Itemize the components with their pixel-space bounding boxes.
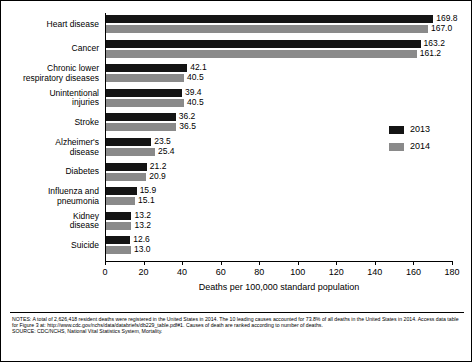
bar-fill [106,89,182,97]
category-label: Alzheimer'sdisease [1,138,99,157]
x-tick [375,261,376,265]
bar-value-label: 13.2 [134,221,151,231]
x-tick-label: 180 [437,267,467,277]
bar-value-label: 167.0 [431,24,452,34]
bar-fill [106,50,417,58]
bar-fill [106,15,433,23]
bar-value-label: 21.2 [150,162,167,172]
category-label: Kidneydisease [1,212,99,231]
legend-swatch [389,143,404,151]
bar-value-label: 40.5 [187,73,204,83]
bar-value-label: 25.4 [158,147,175,157]
chart-legend: 20132014 [389,125,430,159]
bar-fill [106,173,146,181]
category-label: Heart disease [1,20,99,30]
category-label: Unintentionalinjuries [1,89,99,108]
footer-notes: NOTES: A total of 2,626,418 resident dea… [12,316,464,335]
bar-value-label: 36.5 [179,122,196,132]
category-label: Cancer [1,44,99,54]
bar-fill [106,64,187,72]
x-tick-label: 80 [244,267,274,277]
category-label: Influenza andpneumonia [1,187,99,206]
legend-item-2014[interactable]: 2014 [389,142,430,151]
bar-value-label: 15.1 [138,196,155,206]
x-tick [413,261,414,265]
bar-fill [106,148,155,156]
legend-label: 2014 [410,142,430,151]
category-label: Suicide [1,241,99,251]
bar-fill [106,25,428,33]
x-tick-label: 140 [360,267,390,277]
bar-fill [106,99,184,107]
bar-value-label: 20.9 [149,172,166,182]
bar-fill [106,236,130,244]
bar-value-label: 13.2 [134,211,151,221]
notes-text: NOTES: A total of 2,626,418 resident dea… [12,316,464,328]
x-tick-label: 100 [283,267,313,277]
x-tick [452,261,453,265]
bar-fill [106,163,147,171]
footer-divider [10,312,464,313]
figure-container: Heart disease169.8167.0Cancer163.2161.2C… [0,0,472,362]
bar-fill [106,123,176,131]
category-label: Chronic lowerrespiratory diseases [1,64,99,83]
source-text: SOURCE: CDC/NCHS, National Vital Statist… [12,328,464,334]
x-tick [221,261,222,265]
bar-value-label: 39.4 [185,88,202,98]
category-label: Diabetes [1,167,99,177]
x-axis-line [105,261,453,262]
bar-value-label: 40.5 [187,98,204,108]
legend-item-2013[interactable]: 2013 [389,125,430,134]
legend-swatch [389,126,404,134]
bar-fill [106,246,131,254]
legend-label: 2013 [410,125,430,134]
bar-fill [106,74,184,82]
x-tick [336,261,337,265]
x-tick-label: 0 [90,267,120,277]
chart-plot-area: Heart disease169.8167.0Cancer163.2161.2C… [1,1,473,301]
x-axis-label: Deaths per 100,000 standard population [105,282,453,292]
x-tick-label: 160 [398,267,428,277]
x-tick-label: 120 [321,267,351,277]
bar-fill [106,187,137,195]
bar-value-label: 13.0 [134,245,151,255]
bar-fill [106,212,131,220]
x-tick [144,261,145,265]
x-tick-label: 40 [167,267,197,277]
category-label: Stroke [1,118,99,128]
x-tick-label: 60 [206,267,236,277]
x-tick [259,261,260,265]
bar-fill [106,40,421,48]
bar-fill [106,113,176,121]
x-tick [298,261,299,265]
x-tick-label: 20 [129,267,159,277]
bar-value-label: 163.2 [424,39,445,49]
x-tick [105,261,106,265]
bar-value-label: 161.2 [420,49,441,59]
bar-fill [106,222,131,230]
bar-fill [106,197,135,205]
bar-fill [106,138,151,146]
x-tick [182,261,183,265]
